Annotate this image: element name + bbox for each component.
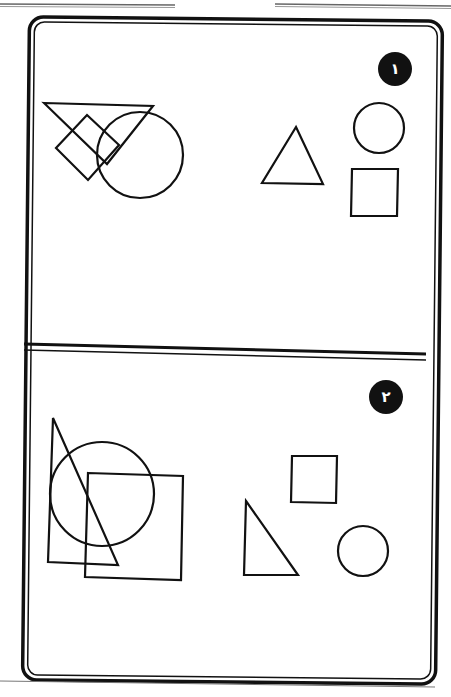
header-rule — [0, 4, 175, 5]
separate-square-shape — [351, 169, 398, 216]
separate-triangle-shape — [244, 501, 298, 575]
worksheet-page — [0, 0, 451, 697]
header-rule — [275, 7, 451, 9]
panel-divider — [24, 344, 426, 354]
header-rule — [275, 4, 451, 6]
panel-number-badge-2: ٢ — [373, 384, 399, 410]
panel-1 — [44, 52, 412, 216]
panel-number-badge-1: ١ — [382, 56, 408, 82]
header-rule — [0, 7, 175, 8]
separate-triangle-shape — [262, 127, 323, 184]
separate-circle-shape — [354, 103, 404, 153]
separate-circle-shape — [338, 526, 388, 576]
header-rules — [0, 4, 451, 9]
separate-square-shape — [291, 456, 337, 503]
panel-2 — [48, 380, 403, 580]
